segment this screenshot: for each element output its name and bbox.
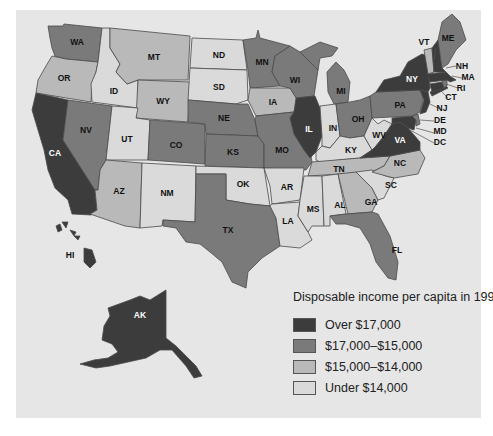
- legend-label: Over $17,000: [325, 318, 401, 332]
- label-ak: AK: [134, 310, 147, 320]
- label-sc: SC: [385, 180, 397, 190]
- legend-label: $15,000–$14,000: [325, 360, 422, 374]
- label-vt: VT: [419, 37, 431, 47]
- label-ut: UT: [121, 134, 133, 144]
- legend-title: Disposable income per capita in 1991: [293, 290, 478, 304]
- label-il: IL: [305, 124, 313, 134]
- label-wy: WY: [156, 96, 170, 106]
- label-nj: NJ: [437, 103, 448, 113]
- label-fl: FL: [392, 245, 402, 255]
- label-md: MD: [433, 126, 446, 136]
- label-nh: NH: [456, 61, 468, 71]
- label-mt: MT: [148, 52, 161, 62]
- label-de: DE: [434, 115, 446, 125]
- label-wi: WI: [290, 75, 300, 85]
- state-fl: [330, 212, 398, 280]
- legend-swatch: [293, 360, 316, 374]
- label-nc: NC: [394, 158, 406, 168]
- legend-swatch: [293, 318, 316, 332]
- legend-item-under-14000: Under $14,000: [293, 377, 478, 398]
- label-sd: SD: [213, 82, 225, 92]
- label-ky: KY: [345, 145, 357, 155]
- label-in: IN: [329, 123, 338, 133]
- label-ok: OK: [237, 179, 251, 189]
- label-az: AZ: [113, 186, 124, 196]
- label-ma: MA: [461, 72, 474, 82]
- label-tn: TN: [333, 164, 344, 174]
- label-va: VA: [394, 135, 405, 145]
- legend-swatch: [293, 339, 316, 353]
- label-ks: KS: [227, 147, 239, 157]
- state-ak: [80, 290, 202, 378]
- label-co: CO: [170, 140, 183, 150]
- label-mo: MO: [275, 145, 289, 155]
- label-ms: MS: [307, 204, 320, 214]
- label-wa: WA: [70, 37, 84, 47]
- label-ny: NY: [406, 74, 418, 84]
- label-nm: NM: [160, 188, 173, 198]
- legend: Disposable income per capita in 1991 Ove…: [293, 290, 478, 398]
- label-wv: WV: [372, 130, 386, 140]
- label-ar: AR: [281, 182, 293, 192]
- label-ia: IA: [269, 97, 278, 107]
- label-nd: ND: [213, 50, 225, 60]
- label-ri: RI: [457, 83, 466, 93]
- label-mi: MI: [336, 86, 345, 96]
- legend-item-over-17000: Over $17,000: [293, 314, 478, 335]
- label-me: ME: [442, 33, 455, 43]
- label-or: OR: [58, 73, 71, 83]
- state-hi: [56, 222, 96, 268]
- label-ct: CT: [445, 92, 457, 102]
- state-ma: [428, 72, 456, 82]
- label-oh: OH: [352, 114, 365, 124]
- label-la: LA: [282, 216, 293, 226]
- label-al: AL: [334, 200, 345, 210]
- label-hi: HI: [66, 250, 75, 260]
- legend-item-17000-15000: $17,000–$15,000: [293, 335, 478, 356]
- legend-item-15000-14000: $15,000–$14,000: [293, 356, 478, 377]
- label-tx: TX: [223, 225, 234, 235]
- label-pa: PA: [394, 100, 405, 110]
- label-dc: DC: [434, 137, 446, 147]
- legend-swatch: [293, 381, 316, 395]
- label-mn: MN: [255, 57, 268, 67]
- label-ca: CA: [49, 148, 61, 158]
- legend-label: Under $14,000: [325, 381, 408, 395]
- legend-label: $17,000–$15,000: [325, 339, 422, 353]
- label-ne: NE: [218, 113, 230, 123]
- label-nv: NV: [80, 125, 92, 135]
- label-ga: GA: [365, 197, 378, 207]
- label-id: ID: [110, 86, 119, 96]
